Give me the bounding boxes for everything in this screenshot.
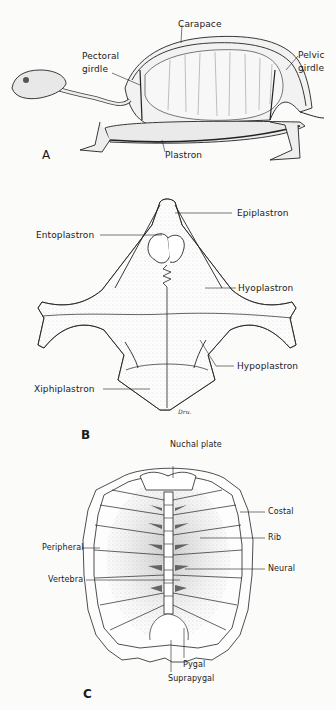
label-pectoral-girdle-line2: girdle xyxy=(82,64,108,74)
label-hyoplastron: Hyoplastron xyxy=(238,283,293,293)
panel-letter-b: B xyxy=(81,428,90,442)
label-pelvic-girdle-line1: Pelvic xyxy=(298,50,325,60)
turtle-anatomy-figure: Dru. xyxy=(0,0,336,710)
label-peripheral: Peripheral xyxy=(42,543,83,553)
label-pelvic-girdle-line2: girdle xyxy=(298,63,324,73)
label-costal: Costal xyxy=(268,507,294,517)
turtle-lateral-skeleton xyxy=(12,25,324,160)
label-xiphiplastron: Xiphiplastron xyxy=(34,384,95,394)
label-carapace: Carapace xyxy=(178,19,222,29)
label-entoplastron: Entoplastron xyxy=(36,230,94,240)
label-nuchal-plate: Nuchal plate xyxy=(170,440,222,450)
label-epiplastron: Epiplastron xyxy=(237,208,289,218)
label-plastron: Plastron xyxy=(165,150,202,160)
label-suprapygal: Suprapygal xyxy=(168,674,214,684)
panel-letter-a: A xyxy=(42,148,50,162)
label-pygal: Pygal xyxy=(183,660,205,670)
label-pectoral-girdle-line1: Pectoral xyxy=(82,51,119,61)
carapace-dorsal-view xyxy=(82,466,265,672)
panel-letter-c: C xyxy=(83,687,92,701)
label-vertebra: Vertebra xyxy=(48,575,83,585)
label-hypoplastron: Hypoplastron xyxy=(237,361,298,371)
label-neural: Neural xyxy=(268,564,295,574)
label-rib: Rib xyxy=(268,533,281,543)
illustrator-signature: Dru. xyxy=(177,408,192,415)
